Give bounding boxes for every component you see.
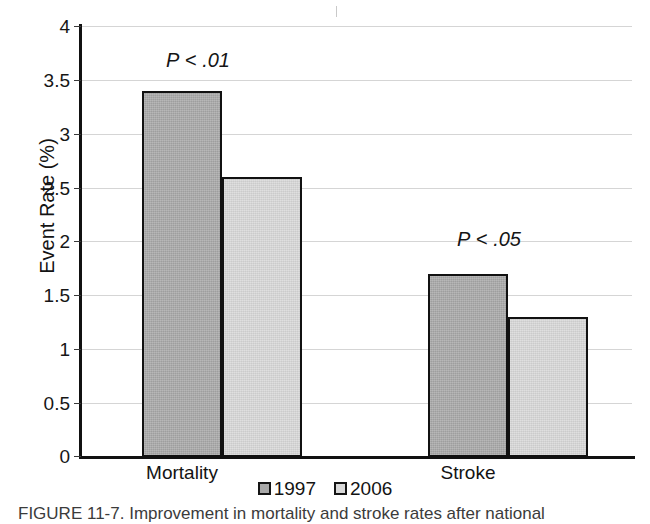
y-tick-0 [74, 456, 81, 457]
gridline-3-5 [82, 80, 632, 81]
annotation-less-than-icon: < [476, 228, 488, 250]
gridline-4 [82, 26, 632, 27]
legend-label-2006: 2006 [350, 479, 392, 498]
y-tick-label-0: 0 [0, 447, 70, 466]
y-tick-3-5 [74, 80, 81, 81]
y-tick-label-1-5: 1.5 [0, 286, 70, 305]
legend-swatch-icon-1997 [258, 482, 271, 495]
scan-artifact-mark [336, 6, 337, 17]
chart-legend: 1997 2006 [0, 479, 650, 498]
bar-mortality-2006[interactable] [222, 177, 302, 457]
annotation-p-value-mortality: P < .01 [166, 50, 230, 70]
y-tick-1-5 [74, 295, 81, 296]
y-tick-label-4: 4 [0, 17, 70, 36]
y-tick-label-3: 3 [0, 125, 70, 144]
figure-caption: FIGURE 11-7. Improvement in mortality an… [18, 503, 644, 524]
y-tick-0-5 [74, 403, 81, 404]
y-tick-2-5 [74, 188, 81, 189]
legend-swatch-icon-2006 [334, 482, 347, 495]
annotation-p-value-stroke: P < .05 [457, 229, 521, 249]
y-tick-label-3-5: 3.5 [0, 71, 70, 90]
legend-item-1997[interactable]: 1997 [258, 479, 316, 498]
plot-area [82, 26, 632, 457]
annotation-p-number: .05 [493, 228, 521, 250]
annotation-p-symbol: P [166, 49, 179, 71]
annotation-p-symbol: P [457, 228, 470, 250]
y-axis-title: Event Rate (%) [37, 76, 57, 336]
y-tick-label-1: 1 [0, 340, 70, 359]
bar-stroke-2006[interactable] [508, 317, 588, 457]
y-tick-label-2-5: 2.5 [0, 179, 70, 198]
y-tick-4 [74, 26, 81, 27]
legend-label-1997: 1997 [274, 479, 316, 498]
x-axis-line [79, 456, 635, 459]
annotation-less-than-icon: < [185, 49, 197, 71]
bar-stroke-1997[interactable] [428, 274, 508, 457]
y-tick-1 [74, 349, 81, 350]
y-tick-label-0-5: 0.5 [0, 394, 70, 413]
bar-mortality-1997[interactable] [142, 91, 222, 457]
annotation-p-number: .01 [202, 49, 230, 71]
y-tick-3 [74, 134, 81, 135]
y-tick-2 [74, 241, 81, 242]
legend-item-2006[interactable]: 2006 [334, 479, 392, 498]
y-tick-label-2: 2 [0, 232, 70, 251]
